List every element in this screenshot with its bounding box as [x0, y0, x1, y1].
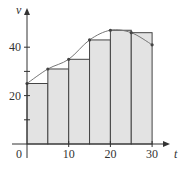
bar-2 [69, 59, 90, 144]
x-axis-label: t [174, 147, 178, 161]
bar-3 [90, 40, 111, 144]
x-tick-label: 10 [63, 147, 75, 161]
x-tick-label: 30 [146, 147, 158, 161]
curve-point-6 [151, 43, 154, 46]
riemann-sum-chart: 01020302040 t v [0, 0, 190, 170]
y-axis-arrow-icon [24, 8, 30, 15]
x-tick-label: 20 [104, 147, 116, 161]
curve-point-5 [130, 31, 133, 34]
bar-1 [48, 69, 69, 144]
bar-0 [27, 84, 48, 145]
bar-4 [110, 30, 131, 144]
y-axis-label: v [16, 3, 22, 17]
curve-point-3 [88, 38, 91, 41]
x-tick-label: 0 [16, 147, 22, 161]
curve-point-1 [46, 67, 49, 70]
y-tick-label: 20 [9, 89, 21, 103]
bar-5 [131, 33, 152, 144]
curve-point-2 [67, 58, 70, 61]
x-axis-arrow-icon [163, 141, 170, 147]
curve-point-4 [109, 29, 112, 32]
y-tick-label: 40 [9, 40, 21, 54]
bars-group [27, 30, 152, 144]
chart-container: 01020302040 t v [0, 0, 190, 170]
